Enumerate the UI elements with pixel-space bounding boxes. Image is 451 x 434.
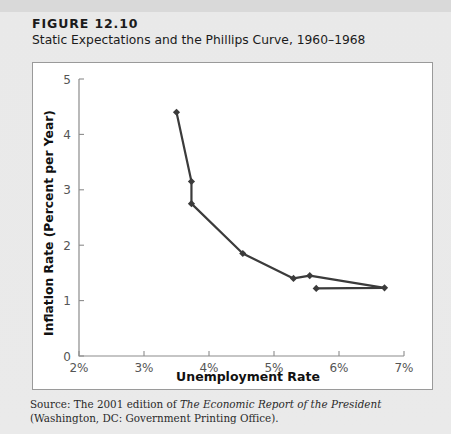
y-tick-label: 1 — [63, 294, 71, 308]
figure-number: FIGURE 12.10 — [32, 16, 432, 31]
figure-page: FIGURE 12.10 Static Expectations and the… — [0, 0, 451, 434]
y-tick-label: 0 — [63, 350, 71, 364]
y-tick-label: 5 — [63, 73, 71, 87]
chart-panel: 2%3%4%5%6%7% 012345 Unemployment Rate In… — [32, 62, 433, 390]
y-tick-label: 4 — [63, 128, 71, 142]
source-prefix: Source: The 2001 edition of — [30, 398, 180, 410]
x-tick-label: 2% — [69, 361, 88, 375]
data-point-marker — [381, 284, 388, 291]
source-italic-title: The Economic Report of the President — [180, 398, 381, 410]
axes — [79, 79, 404, 356]
data-point-marker — [188, 178, 195, 185]
data-markers — [173, 109, 388, 292]
page-top-band — [0, 0, 451, 12]
y-tick-label: 2 — [63, 239, 71, 253]
data-point-marker — [290, 275, 297, 282]
x-tick-label: 3% — [134, 361, 153, 375]
data-point-marker — [313, 285, 320, 292]
series-line — [177, 112, 385, 288]
y-tick-label: 3 — [63, 183, 71, 197]
x-tick-label: 7% — [394, 361, 413, 375]
figure-header: FIGURE 12.10 Static Expectations and the… — [32, 16, 432, 49]
tick-marks — [79, 79, 404, 356]
x-axis-title: Unemployment Rate — [176, 369, 320, 384]
data-point-marker — [173, 109, 180, 116]
x-tick-label: 6% — [329, 361, 348, 375]
y-axis-title: Inflation Rate (Percent per Year) — [42, 110, 56, 336]
figure-source: Source: The 2001 edition of The Economic… — [30, 398, 434, 425]
figure-title: Static Expectations and the Phillips Cur… — [32, 32, 432, 49]
data-point-marker — [306, 272, 313, 279]
y-tick-labels: 012345 — [63, 73, 71, 364]
phillips-curve-chart: 2%3%4%5%6%7% 012345 Unemployment Rate In… — [33, 63, 432, 389]
source-suffix: (Washington, DC: Government Printing Off… — [30, 412, 279, 424]
data-series — [177, 112, 385, 288]
